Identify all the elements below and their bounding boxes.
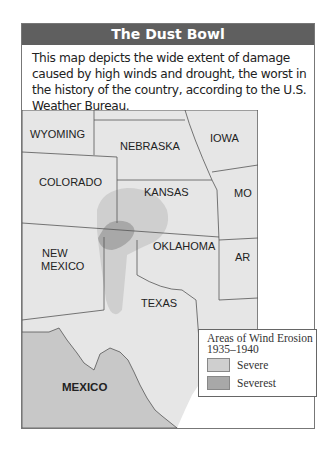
label-kansas: KANSAS (144, 186, 189, 198)
label-texas: TEXAS (141, 297, 177, 309)
legend-title: Areas of Wind Erosion 1935–1940 (207, 333, 313, 355)
label-nebraska: NEBRASKA (120, 140, 180, 152)
label-iowa: IOWA (210, 132, 239, 144)
legend-swatch-severe (207, 358, 230, 372)
map-caption: This map depicts the wide extent of dama… (32, 50, 312, 114)
label-ar: AR (235, 251, 250, 263)
dust-bowl-panel: The Dust Bowl This map depicts the wide … (21, 23, 315, 429)
map-legend: Areas of Wind Erosion 1935–1940 Severe S… (198, 329, 317, 397)
label-mo: MO (234, 187, 252, 199)
label-oklahoma: OKLAHOMA (153, 240, 215, 252)
label-new-mexico-line2: MEXICO (41, 260, 84, 272)
legend-label-severest: Severest (237, 377, 276, 389)
label-new-mexico-line1: NEW (42, 247, 68, 259)
panel-title: The Dust Bowl (22, 24, 314, 45)
label-mexico: MEXICO (62, 381, 107, 393)
label-colorado: COLORADO (39, 176, 102, 188)
legend-swatch-severest (207, 376, 230, 390)
label-wyoming: WYOMING (30, 128, 85, 140)
legend-label-severe: Severe (237, 359, 268, 371)
